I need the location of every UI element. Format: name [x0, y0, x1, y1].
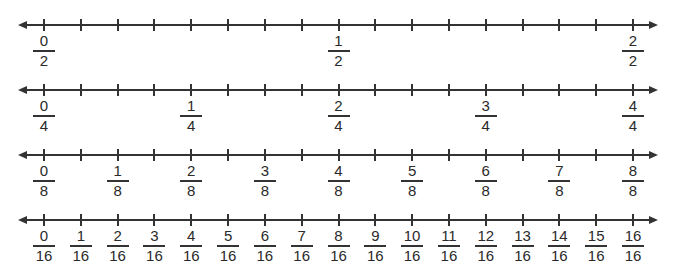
tick-mark — [43, 84, 45, 96]
numerator: 8 — [618, 163, 648, 179]
tick-mark — [264, 149, 266, 161]
tick-mark — [301, 149, 303, 161]
numerator: 5 — [397, 163, 427, 179]
arrow-left-icon — [18, 216, 27, 224]
numerator: 7 — [544, 163, 574, 179]
numerator: 15 — [581, 228, 611, 244]
denominator: 16 — [471, 248, 501, 264]
fraction-label: 1316 — [508, 228, 538, 264]
tick-mark — [301, 214, 303, 226]
arrow-right-icon — [649, 216, 658, 224]
numerator: 0 — [29, 98, 59, 114]
fraction-label: 58 — [397, 163, 427, 199]
tick-mark — [190, 149, 192, 161]
denominator: 4 — [176, 118, 206, 134]
numerator: 0 — [29, 163, 59, 179]
tick-mark — [117, 149, 119, 161]
fraction-label: 48 — [324, 163, 354, 199]
denominator: 8 — [103, 183, 133, 199]
denominator: 4 — [618, 118, 648, 134]
numerator: 3 — [471, 98, 501, 114]
numerator: 8 — [324, 228, 354, 244]
fraction-label: 78 — [544, 163, 574, 199]
fraction-label: 44 — [618, 98, 648, 134]
fraction-label: 416 — [176, 228, 206, 264]
tick-mark — [80, 214, 82, 226]
tick-mark — [153, 214, 155, 226]
tick-mark — [411, 149, 413, 161]
denominator: 16 — [360, 248, 390, 264]
numerator: 14 — [544, 228, 574, 244]
fraction-label: 1216 — [471, 228, 501, 264]
fraction-label: 516 — [213, 228, 243, 264]
denominator: 16 — [581, 248, 611, 264]
denominator: 8 — [176, 183, 206, 199]
arrow-right-icon — [649, 151, 658, 159]
fraction-label: 88 — [618, 163, 648, 199]
numerator: 13 — [508, 228, 538, 244]
denominator: 16 — [287, 248, 317, 264]
tick-mark — [411, 84, 413, 96]
numerator: 1 — [176, 98, 206, 114]
tick-mark — [632, 84, 634, 96]
arrow-left-icon — [18, 151, 27, 159]
denominator: 16 — [176, 248, 206, 264]
tick-mark — [522, 149, 524, 161]
tick-mark — [80, 84, 82, 96]
tick-mark — [227, 84, 229, 96]
fraction-label: 816 — [324, 228, 354, 264]
numerator: 5 — [213, 228, 243, 244]
fraction-label: 1016 — [397, 228, 427, 264]
denominator: 8 — [29, 183, 59, 199]
tick-mark — [374, 214, 376, 226]
fraction-label: 04 — [29, 98, 59, 134]
denominator: 16 — [66, 248, 96, 264]
tick-mark — [558, 214, 560, 226]
numerator: 11 — [434, 228, 464, 244]
tick-mark — [80, 149, 82, 161]
fraction-label: 716 — [287, 228, 317, 264]
tick-mark — [43, 214, 45, 226]
denominator: 4 — [471, 118, 501, 134]
denominator: 16 — [29, 248, 59, 264]
denominator: 4 — [324, 118, 354, 134]
fraction-label: 1516 — [581, 228, 611, 264]
numerator: 4 — [324, 163, 354, 179]
tick-mark — [522, 214, 524, 226]
numerator: 10 — [397, 228, 427, 244]
denominator: 16 — [103, 248, 133, 264]
denominator: 8 — [544, 183, 574, 199]
number-line-16ths: 0161162163164165166167168169161016111612… — [0, 0, 673, 60]
fraction-label: 216 — [103, 228, 133, 264]
numerator: 16 — [618, 228, 648, 244]
numerator: 2 — [176, 163, 206, 179]
fraction-label: 016 — [29, 228, 59, 264]
denominator: 16 — [213, 248, 243, 264]
tick-mark — [448, 149, 450, 161]
numerator: 1 — [66, 228, 96, 244]
numerator: 6 — [471, 163, 501, 179]
fraction-label: 08 — [29, 163, 59, 199]
denominator: 16 — [434, 248, 464, 264]
numerator: 4 — [618, 98, 648, 114]
tick-mark — [43, 149, 45, 161]
denominator: 16 — [544, 248, 574, 264]
fraction-label: 28 — [176, 163, 206, 199]
numerator: 3 — [139, 228, 169, 244]
tick-mark — [632, 214, 634, 226]
fraction-label: 1416 — [544, 228, 574, 264]
tick-mark — [227, 214, 229, 226]
tick-mark — [374, 149, 376, 161]
denominator: 8 — [618, 183, 648, 199]
fraction-label: 1116 — [434, 228, 464, 264]
tick-mark — [153, 84, 155, 96]
denominator: 8 — [324, 183, 354, 199]
tick-mark — [485, 84, 487, 96]
numerator: 2 — [103, 228, 133, 244]
tick-mark — [338, 149, 340, 161]
numerator: 7 — [287, 228, 317, 244]
denominator: 8 — [250, 183, 280, 199]
fraction-label: 316 — [139, 228, 169, 264]
fraction-label: 68 — [471, 163, 501, 199]
tick-mark — [558, 149, 560, 161]
